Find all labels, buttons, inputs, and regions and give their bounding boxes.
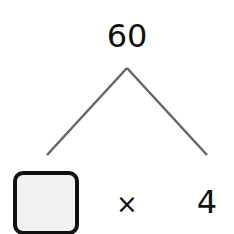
known-factor-number: 4 (190, 182, 224, 222)
product-number: 60 (0, 16, 234, 56)
left-branch-line (47, 68, 127, 155)
multiply-sign: × (112, 186, 142, 222)
unknown-factor-box[interactable] (13, 171, 79, 234)
right-branch-line (127, 68, 207, 155)
